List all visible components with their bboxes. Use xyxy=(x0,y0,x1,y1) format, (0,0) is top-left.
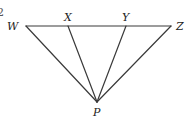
segment-xp xyxy=(68,26,97,102)
label-y: Y xyxy=(122,11,131,24)
label-z: Z xyxy=(175,20,184,33)
segment-zp xyxy=(97,26,171,102)
label-x: X xyxy=(63,11,73,24)
cut-off-question-number: 2 xyxy=(0,6,4,19)
label-w: W xyxy=(7,20,20,33)
segment-wp xyxy=(26,26,97,102)
geometry-diagram: 2 W X Y Z P xyxy=(0,0,189,122)
segments-group xyxy=(26,26,171,102)
label-p: P xyxy=(92,106,101,119)
segment-yp xyxy=(97,26,126,102)
